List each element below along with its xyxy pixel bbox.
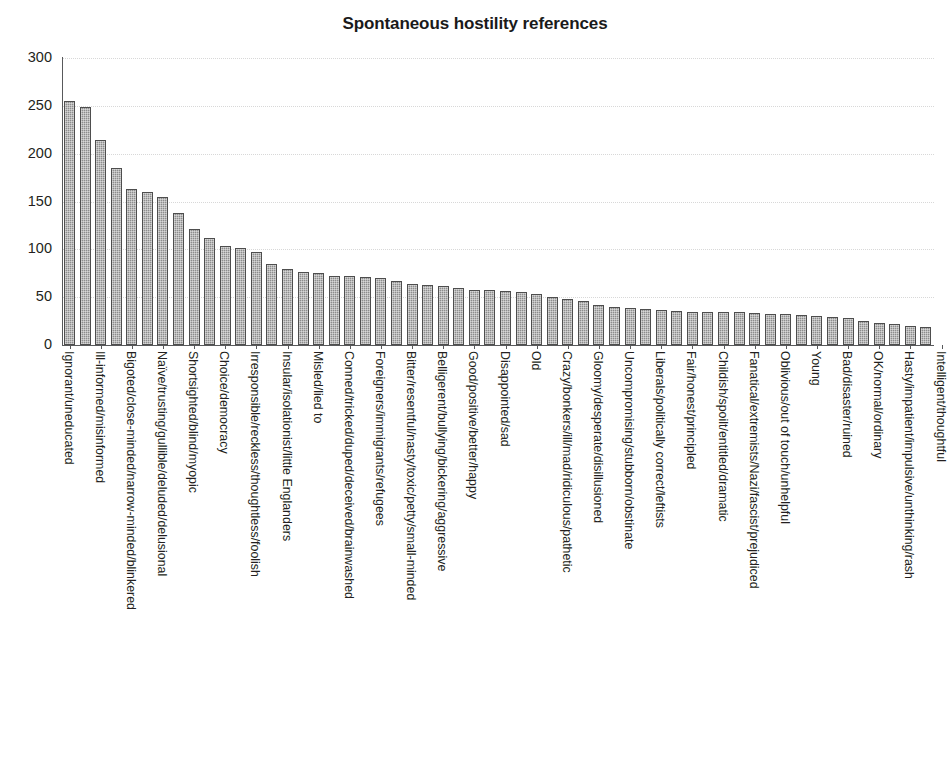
x-axis-tick [692, 345, 693, 349]
x-axis-tick [288, 345, 289, 349]
bar [640, 309, 651, 345]
x-axis-tick-label: Bitter/resentful/nasty/toxic/petty/small… [405, 351, 417, 600]
bar [811, 316, 822, 345]
x-axis-tick-label: Young [810, 351, 822, 386]
x-axis-tick [70, 345, 71, 349]
x-axis-tick-label: Fair/honest/principled [685, 351, 697, 469]
bar [375, 278, 386, 345]
bar [282, 269, 293, 345]
x-axis-tick-label: Shortsighted/blind/myopic [187, 351, 199, 493]
x-axis-tick [942, 345, 943, 349]
x-axis-tick [319, 345, 320, 349]
bar [438, 286, 449, 345]
x-axis-tick [443, 345, 444, 349]
bar [235, 248, 246, 345]
bar [734, 312, 745, 345]
x-axis-tick-label: Intelligent/thoughtful [934, 351, 946, 462]
x-axis-tick [350, 345, 351, 349]
x-axis-tick [724, 345, 725, 349]
x-axis-category-labels: Ignorant/uneducatedIll-informed/misinfor… [0, 345, 950, 772]
bar [313, 273, 324, 345]
bar [531, 294, 542, 345]
x-axis-tick [412, 345, 413, 349]
x-axis-tick [661, 345, 662, 349]
bar [298, 272, 309, 345]
x-axis-tick [132, 345, 133, 349]
x-axis-tick [755, 345, 756, 349]
x-axis-tick-label: Hasty/impatient/impulsive/unthinking/ras… [903, 351, 915, 579]
x-axis-tick-label: Old [529, 351, 541, 370]
x-axis-tick [506, 345, 507, 349]
y-axis-tick-label: 150 [6, 193, 52, 209]
x-axis-tick-label: Bigoted/close-minded/narrow-minded/blink… [124, 351, 136, 610]
x-axis-tick [786, 345, 787, 349]
bar [889, 324, 900, 345]
x-axis-tick-label: Misled/lied to [311, 351, 323, 423]
bar [344, 276, 355, 345]
bar [469, 290, 480, 345]
bar [95, 140, 106, 345]
bar [173, 213, 184, 345]
x-axis-tick-label: Bad/disaster/ruined [841, 351, 853, 458]
x-axis-tick [381, 345, 382, 349]
x-axis-tick-label: Naïve/trusting/gullible/deluded/delusion… [156, 351, 168, 576]
x-axis-tick-label: Crazy/bonkers/ill/mad/ridiculous/patheti… [560, 351, 572, 573]
x-axis-tick-label: Irresponsible/reckless/thoughtless/fooli… [249, 351, 261, 577]
x-axis-tick [194, 345, 195, 349]
x-axis-tick-label: Uncompromising/stubborn/obstinate [623, 351, 635, 549]
x-axis-tick [537, 345, 538, 349]
x-axis-tick-label: Ignorant/uneducated [62, 351, 74, 465]
y-axis-tick-label: 50 [6, 288, 52, 304]
y-axis-tick-label: 100 [6, 240, 52, 256]
gridline [62, 154, 934, 155]
x-axis-tick-label: Childish/spoilt/entitled/dramatic [716, 351, 728, 522]
bar [360, 277, 371, 345]
bar [874, 323, 885, 345]
x-axis-tick-label: OK/normal/ordinary [872, 351, 884, 458]
x-axis-tick-label: Belligerent/bullying/bickering/aggressiv… [436, 351, 448, 571]
x-axis-tick [848, 345, 849, 349]
x-axis-tick-label: Disappointed/sad [498, 351, 510, 447]
bar [718, 312, 729, 345]
x-axis-tick [879, 345, 880, 349]
bar [827, 317, 838, 345]
x-axis-tick-label: Oblivious/out of touch/unhelpful [778, 351, 790, 524]
bar [111, 168, 122, 345]
chart-title: Spontaneous hostility references [0, 14, 950, 34]
x-axis-tick-label: Insular/isolationist/little Englanders [280, 351, 292, 541]
bar [220, 246, 231, 345]
bar [484, 290, 495, 345]
x-axis-tick [817, 345, 818, 349]
bar [391, 281, 402, 345]
x-axis-tick-label: Foreigners/immigrants/refugees [374, 351, 386, 526]
bar [780, 314, 791, 345]
plot-area [62, 58, 934, 345]
x-axis-tick [101, 345, 102, 349]
x-axis-tick [225, 345, 226, 349]
x-axis-tick [630, 345, 631, 349]
y-axis-line [62, 57, 63, 346]
bar [687, 312, 698, 345]
x-axis-tick [910, 345, 911, 349]
bar [453, 288, 464, 345]
bar [516, 292, 527, 345]
x-axis-tick [568, 345, 569, 349]
bar [656, 310, 667, 345]
bar [671, 311, 682, 345]
y-axis-tick-label: 300 [6, 49, 52, 65]
y-axis-tick-label: 200 [6, 145, 52, 161]
x-axis-tick [163, 345, 164, 349]
gridline [62, 58, 934, 59]
bar-chart: Spontaneous hostility references 0501001… [0, 0, 950, 772]
x-axis-tick-label: Fanatical/extremists/Nazi/fascist/prejud… [747, 351, 759, 589]
bar [329, 276, 340, 345]
bar [142, 192, 153, 345]
gridline [62, 106, 934, 107]
bar [189, 229, 200, 345]
bar [80, 107, 91, 345]
bar [905, 326, 916, 345]
y-axis-tick-label: 250 [6, 97, 52, 113]
x-axis-tick-label: Ill-informed/misinformed [93, 351, 105, 483]
bar [500, 291, 511, 345]
x-axis-tick-label: Good/positive/better/happy [467, 351, 479, 499]
